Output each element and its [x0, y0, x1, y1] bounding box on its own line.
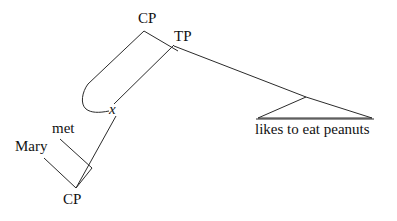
edge-met-lower-segment: [76, 168, 92, 188]
syntax-tree-diagram: CP TP x met Mary CP likes to eat peanuts: [0, 0, 397, 221]
edge-cp-to-tp: [144, 31, 178, 51]
edge-mary-to-cp-bottom: [44, 158, 76, 188]
node-label-cp-bottom: CP: [63, 192, 81, 207]
node-label-trace: x: [109, 102, 116, 117]
node-label-phrase: likes to eat peanuts: [255, 122, 370, 137]
edge-met-to-cp-bottom: [60, 139, 92, 168]
phrase-triangle: [258, 97, 372, 118]
node-label-cp-top: CP: [138, 11, 156, 26]
node-label-mary: Mary: [15, 139, 48, 154]
node-label-tp: TP: [174, 29, 192, 44]
edge-tp-to-trace: [114, 45, 174, 104]
edge-trace-to-cp-bottom: [76, 116, 116, 188]
tree-edges: [0, 0, 397, 221]
node-label-met: met: [52, 121, 75, 136]
edge-tp-to-phrase: [174, 46, 306, 97]
